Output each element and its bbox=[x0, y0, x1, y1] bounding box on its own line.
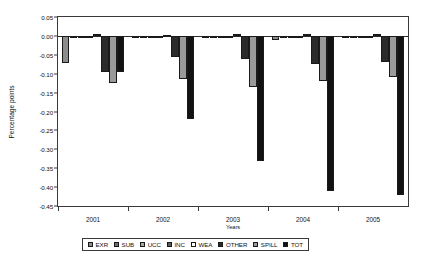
x-axis-tick-label: 2004 bbox=[296, 216, 310, 223]
bar-inc-2005 bbox=[365, 36, 372, 38]
legend-item-label: EXR bbox=[96, 241, 109, 248]
x-axis-tick-label: 2003 bbox=[226, 216, 240, 223]
bar-ucc-2002 bbox=[148, 36, 155, 38]
bar-other-2003 bbox=[241, 36, 248, 59]
bar-ucc-2005 bbox=[358, 36, 365, 38]
y-axis-tick-label: -0.40 bbox=[39, 184, 53, 191]
bar-other-2001 bbox=[101, 36, 108, 72]
bar-tot-2002 bbox=[187, 36, 194, 119]
legend-item-label: OTHER bbox=[226, 241, 247, 248]
bar-spill-2004 bbox=[319, 36, 326, 81]
bar-wea-2001 bbox=[93, 34, 100, 36]
bar-wea-2005 bbox=[373, 34, 380, 36]
y-axis: 0.050.00-0.05-0.10-0.15-0.20-0.25-0.30-0… bbox=[0, 16, 57, 207]
y-axis-tick-label: 0.00 bbox=[41, 32, 53, 39]
legend-swatch-icon bbox=[114, 242, 119, 247]
plot-area bbox=[57, 16, 409, 207]
x-axis-tick-label: 2001 bbox=[86, 216, 100, 223]
bar-ucc-2004 bbox=[288, 36, 295, 38]
x-axis-title: Years bbox=[57, 224, 409, 230]
legend-item-wea[interactable]: WEA bbox=[191, 241, 212, 248]
bar-exr-2005 bbox=[342, 36, 349, 38]
y-axis-tick-label: 0.05 bbox=[41, 14, 53, 21]
bar-ucc-2003 bbox=[218, 36, 225, 38]
legend-swatch-icon bbox=[140, 242, 145, 247]
x-axis-tick-label: 2002 bbox=[156, 216, 170, 223]
bar-sub-2004 bbox=[280, 36, 287, 38]
bar-other-2005 bbox=[381, 36, 388, 62]
bar-other-2004 bbox=[311, 36, 318, 64]
legend-swatch-icon bbox=[88, 242, 93, 247]
legend-item-label: INC bbox=[174, 241, 185, 248]
bar-wea-2004 bbox=[303, 34, 310, 36]
bar-sub-2003 bbox=[210, 36, 217, 38]
legend-item-exr[interactable]: EXR bbox=[88, 241, 108, 248]
bar-sub-2002 bbox=[140, 36, 147, 38]
bar-spill-2005 bbox=[389, 36, 396, 78]
legend-swatch-icon bbox=[167, 242, 172, 247]
bar-wea-2002 bbox=[163, 35, 170, 37]
bar-tot-2005 bbox=[397, 36, 404, 195]
legend-swatch-icon bbox=[253, 242, 258, 247]
legend-swatch-icon bbox=[218, 242, 223, 247]
bar-group-2001 bbox=[62, 17, 125, 206]
bar-inc-2001 bbox=[85, 36, 92, 38]
legend-swatch-icon bbox=[191, 242, 196, 247]
legend-item-label: TOT bbox=[291, 241, 303, 248]
bar-group-2002 bbox=[132, 17, 195, 206]
bar-spill-2003 bbox=[249, 36, 256, 87]
legend-item-inc[interactable]: INC bbox=[167, 241, 185, 248]
chart-container: Percentage points 0.050.00-0.05-0.10-0.1… bbox=[0, 0, 421, 266]
x-axis-tick-mark bbox=[128, 207, 129, 211]
bar-inc-2004 bbox=[295, 36, 302, 38]
x-axis-tick-label: 2005 bbox=[366, 216, 380, 223]
legend-item-label: SPILL bbox=[261, 241, 278, 248]
legend-swatch-icon bbox=[283, 242, 288, 247]
legend-item-label: SUB bbox=[122, 241, 135, 248]
bar-exr-2004 bbox=[272, 36, 279, 41]
bar-spill-2001 bbox=[109, 36, 116, 83]
bars-layer bbox=[58, 17, 408, 206]
legend-item-sub[interactable]: SUB bbox=[114, 241, 134, 248]
legend-item-ucc[interactable]: UCC bbox=[140, 241, 161, 248]
x-axis-tick-mark bbox=[338, 207, 339, 211]
x-axis-tick-mark bbox=[268, 207, 269, 211]
x-axis-tick-mark bbox=[198, 207, 199, 211]
legend-item-other[interactable]: OTHER bbox=[218, 241, 247, 248]
bar-tot-2001 bbox=[117, 36, 124, 72]
bar-exr-2001 bbox=[62, 36, 69, 64]
legend-item-label: UCC bbox=[148, 241, 161, 248]
bar-sub-2005 bbox=[350, 36, 357, 38]
y-axis-tick-label: -0.35 bbox=[39, 165, 53, 172]
bar-inc-2002 bbox=[155, 36, 162, 38]
bar-inc-2003 bbox=[225, 36, 232, 38]
legend-item-label: WEA bbox=[198, 241, 212, 248]
y-axis-tick-label: -0.20 bbox=[39, 108, 53, 115]
bar-tot-2003 bbox=[257, 36, 264, 161]
bar-spill-2002 bbox=[179, 36, 186, 79]
legend-item-spill[interactable]: SPILL bbox=[253, 241, 277, 248]
y-axis-tick-label: -0.25 bbox=[39, 127, 53, 134]
bar-group-2003 bbox=[202, 17, 265, 206]
bar-group-2004 bbox=[272, 17, 335, 206]
y-axis-tick-label: -0.45 bbox=[39, 203, 53, 210]
bar-exr-2002 bbox=[132, 36, 139, 38]
x-axis-tick-mark bbox=[58, 207, 59, 211]
bar-exr-2003 bbox=[202, 36, 209, 38]
legend: EXRSUBUCCINCWEAOTHERSPILLTOT bbox=[82, 238, 309, 251]
bar-ucc-2001 bbox=[78, 36, 85, 38]
legend-item-tot[interactable]: TOT bbox=[283, 241, 303, 248]
y-axis-tick-label: -0.10 bbox=[39, 70, 53, 77]
bar-wea-2003 bbox=[233, 34, 240, 36]
bar-sub-2001 bbox=[70, 36, 77, 38]
bar-tot-2004 bbox=[327, 36, 334, 191]
y-axis-tick-label: -0.30 bbox=[39, 146, 53, 153]
y-axis-tick-label: -0.15 bbox=[39, 89, 53, 96]
y-axis-tick-label: -0.05 bbox=[39, 51, 53, 58]
bar-other-2002 bbox=[171, 36, 178, 57]
bar-group-2005 bbox=[342, 17, 405, 206]
